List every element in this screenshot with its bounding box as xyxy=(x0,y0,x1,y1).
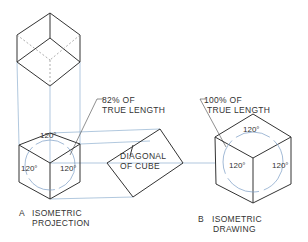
angle-label-a-left: 120° xyxy=(21,164,38,173)
caption-a-line2: PROJECTION xyxy=(32,218,90,228)
diagonal-label-line2: OF CUBE xyxy=(120,161,160,171)
length-note-a-line2: TRUE LENGTH xyxy=(102,105,165,115)
caption-b-line1: ISOMETRIC xyxy=(212,214,262,224)
angle-label-a-right: 120° xyxy=(60,164,77,173)
caption-b-line2: DRAWING xyxy=(213,224,256,234)
hidden-lines xyxy=(17,35,80,86)
top-view-cube xyxy=(17,13,80,86)
diagonal-label-line1: DIAGONAL xyxy=(120,151,166,161)
angle-label-b-top: 120° xyxy=(243,125,260,134)
angle-label-b-right: 120° xyxy=(272,161,289,170)
length-note-b-line2: TRUE LENGTH xyxy=(207,105,270,115)
diagram-canvas xyxy=(0,0,308,242)
angle-label-b-left: 120° xyxy=(229,161,246,170)
caption-b-letter: B xyxy=(198,214,204,224)
caption-a-letter: A xyxy=(19,208,25,218)
angle-label-a-top: 120° xyxy=(40,131,57,140)
length-note-b-line1: 100% OF xyxy=(204,95,242,105)
length-note-a-line1: 82% OF xyxy=(102,95,135,105)
caption-a-line1: ISOMETRIC xyxy=(32,208,82,218)
